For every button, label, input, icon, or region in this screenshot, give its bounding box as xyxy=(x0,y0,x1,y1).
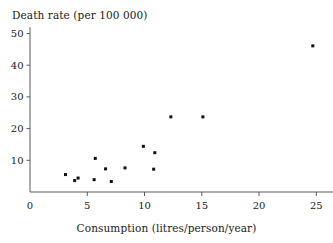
data-point xyxy=(93,178,96,181)
data-point xyxy=(64,173,67,176)
x-tick-label: 25 xyxy=(310,200,323,211)
data-point xyxy=(124,166,127,169)
x-tick-label: 0 xyxy=(27,200,33,211)
x-tick-label: 10 xyxy=(138,200,151,211)
y-tick-label: 10 xyxy=(11,155,24,166)
data-point xyxy=(201,115,204,118)
data-point xyxy=(311,44,314,47)
data-point xyxy=(142,145,145,148)
x-tick-label: 5 xyxy=(84,200,90,211)
data-point xyxy=(73,179,76,182)
scatter-plot-figure: Death rate (per 100 000) 102030405005101… xyxy=(0,0,333,243)
data-point xyxy=(94,157,97,160)
y-tick-label: 40 xyxy=(11,60,24,71)
axis-spines xyxy=(30,27,333,192)
y-tick-label: 30 xyxy=(11,91,24,102)
x-tick-label: 20 xyxy=(253,200,266,211)
data-point xyxy=(104,167,107,170)
plot-area: 10203040500510152025 xyxy=(0,0,333,243)
y-tick-label: 20 xyxy=(11,123,24,134)
data-point xyxy=(152,168,155,171)
data-point xyxy=(169,115,172,118)
y-tick-label: 50 xyxy=(11,28,24,39)
x-axis-title: Consumption (litres/person/year) xyxy=(0,222,333,234)
data-point xyxy=(110,180,113,183)
data-point xyxy=(77,177,80,180)
data-point xyxy=(153,151,156,154)
x-tick-label: 15 xyxy=(195,200,208,211)
